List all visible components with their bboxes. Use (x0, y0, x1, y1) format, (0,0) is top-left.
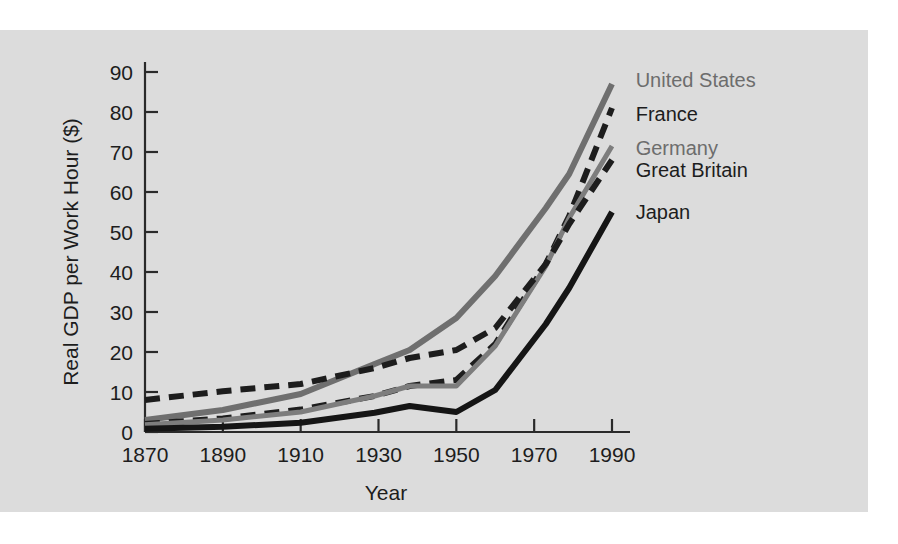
series-label-united-states: United States (636, 69, 756, 91)
y-tick-label: 50 (110, 221, 133, 244)
line-chart: 0102030405060708090 18701890191019301950… (0, 0, 898, 544)
y-tick-label: 60 (110, 181, 133, 204)
y-tick-label: 40 (110, 261, 133, 284)
y-axis-ticks (145, 72, 158, 432)
y-axis-tick-labels: 0102030405060708090 (110, 61, 133, 444)
series-line-united-states (145, 84, 612, 420)
x-tick-label: 1870 (122, 443, 169, 466)
x-tick-label: 1910 (277, 443, 324, 466)
x-axis-tick-labels: 1870189019101930195019701990 (122, 443, 636, 466)
x-tick-label: 1990 (589, 443, 636, 466)
y-tick-label: 70 (110, 141, 133, 164)
x-tick-label: 1930 (355, 443, 402, 466)
series-line-germany (145, 146, 612, 425)
y-tick-label: 90 (110, 61, 133, 84)
series-label-japan: Japan (636, 201, 691, 223)
series-label-germany: Germany (636, 137, 718, 159)
y-tick-label: 80 (110, 101, 133, 124)
y-tick-label: 0 (121, 421, 133, 444)
series-label-france: France (636, 103, 698, 125)
y-axis-title: Real GDP per Work Hour ($) (59, 118, 82, 386)
x-tick-label: 1890 (199, 443, 246, 466)
axes: 0102030405060708090 18701890191019301950… (110, 61, 636, 466)
data-series-group (145, 84, 612, 429)
x-tick-label: 1950 (433, 443, 480, 466)
x-axis-title: Year (365, 481, 407, 504)
x-tick-label: 1970 (511, 443, 558, 466)
y-tick-label: 30 (110, 301, 133, 324)
series-labels-group: United StatesFranceGermanyGreat BritainJ… (636, 69, 756, 223)
figure-root: 0102030405060708090 18701890191019301950… (0, 0, 898, 544)
y-tick-label: 20 (110, 341, 133, 364)
y-tick-label: 10 (110, 381, 133, 404)
series-label-great-britain: Great Britain (636, 159, 748, 181)
